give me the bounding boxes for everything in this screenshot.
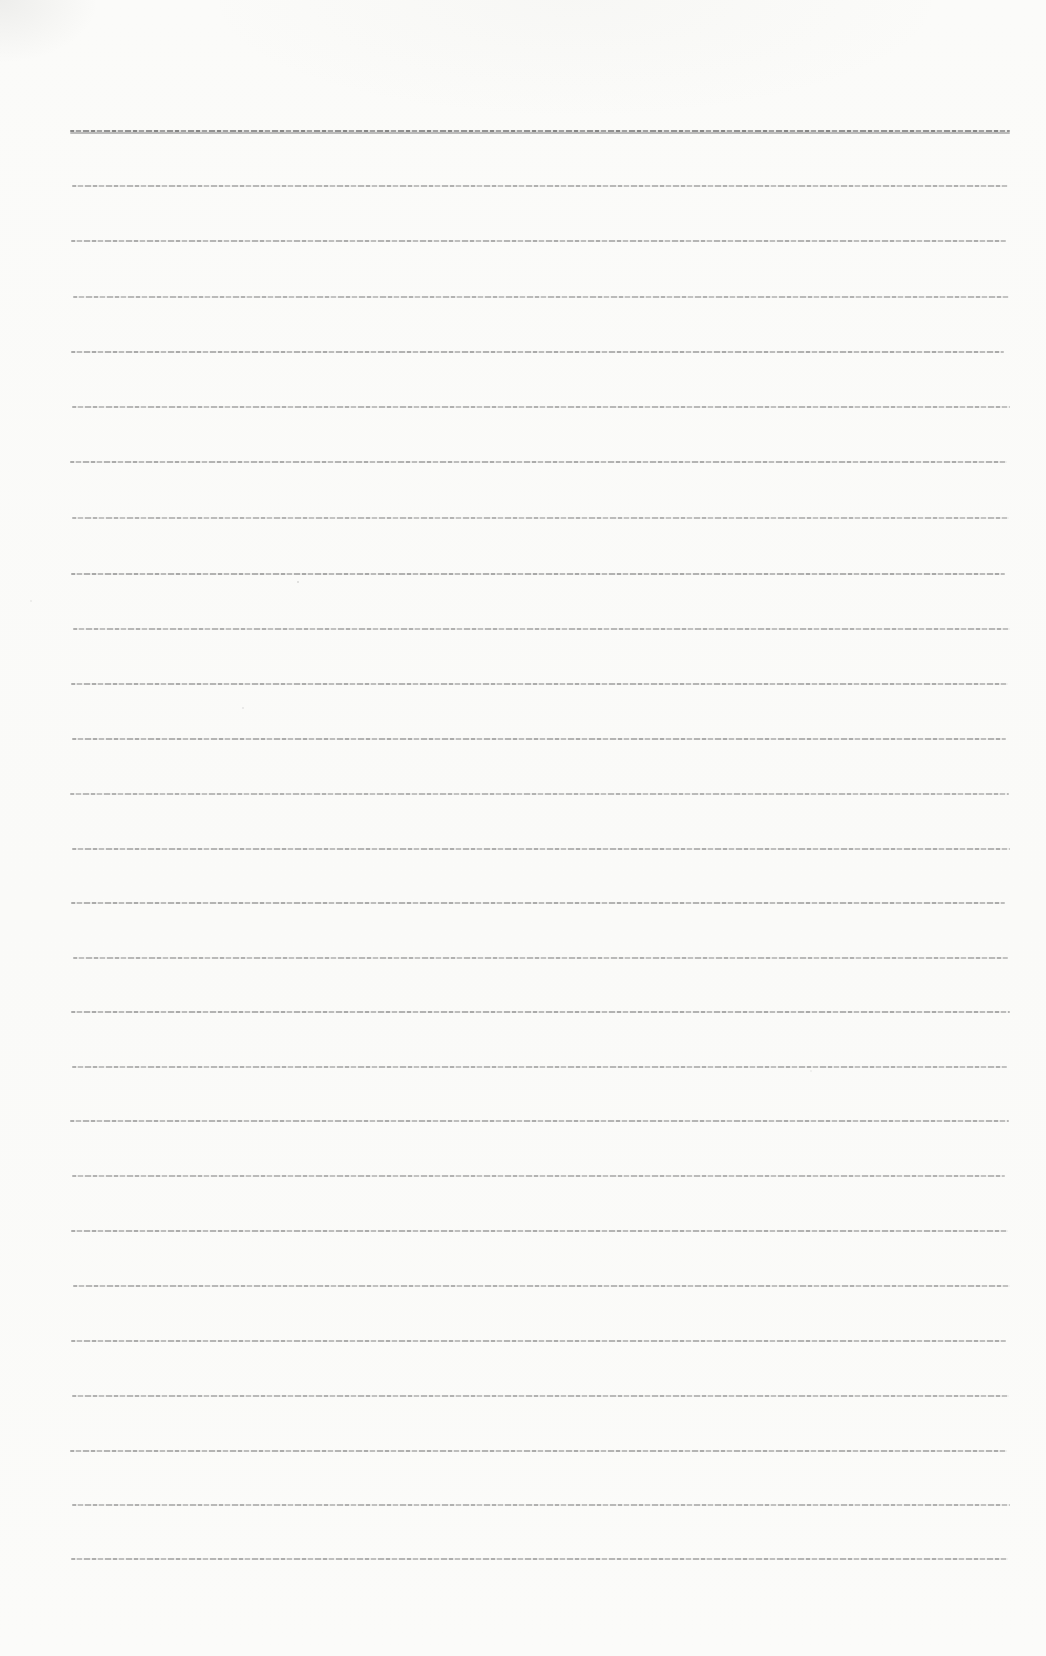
ruled-line (73, 957, 1008, 959)
ruled-line (70, 461, 1007, 463)
ruled-line (71, 1558, 1008, 1560)
speckle-dot (297, 581, 299, 583)
speckle-dot (242, 707, 244, 709)
ruled-line (71, 683, 1008, 685)
ruled-line (72, 848, 1010, 850)
ruled-line (71, 902, 1005, 904)
ruled-line (70, 1450, 1007, 1452)
ruled-line (70, 1120, 1009, 1122)
ruled-line (71, 1230, 1008, 1232)
ruled-line (71, 573, 1005, 575)
ruled-line (73, 628, 1010, 630)
ruled-line (72, 738, 1006, 740)
speckle-dot (30, 600, 32, 602)
ruled-line (71, 1340, 1006, 1342)
ruled-line-top (70, 130, 1010, 132)
speckle-dot (810, 1070, 812, 1072)
ruled-line (73, 1285, 1010, 1287)
ruled-line (72, 1175, 1005, 1177)
ruled-line (71, 1011, 1010, 1013)
ruled-line (73, 296, 1009, 298)
ruled-line (72, 185, 1008, 187)
ruled-line (72, 1395, 1009, 1397)
ruled-line (71, 351, 1004, 353)
ruled-line (70, 793, 1009, 795)
ruled-line (71, 240, 1006, 242)
ruled-line (72, 1504, 1010, 1506)
ruled-line (72, 406, 1010, 408)
notepad-page (0, 0, 1046, 1656)
ruled-lines (0, 0, 1046, 1656)
ruled-line (72, 517, 1009, 519)
ruled-line (72, 1066, 1007, 1068)
